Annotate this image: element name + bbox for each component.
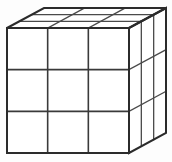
cube-diagram xyxy=(0,0,172,162)
face-fills xyxy=(7,8,166,153)
right-face-fill xyxy=(129,8,166,153)
cube-figure-canvas xyxy=(0,0,172,162)
front-face-fill xyxy=(7,28,129,153)
